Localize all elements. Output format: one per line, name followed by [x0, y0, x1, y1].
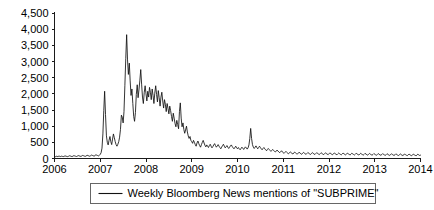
- x-tick-label: 2007: [88, 163, 112, 175]
- x-axis-tick-labels: 200620072008200920102011201220132014: [42, 163, 432, 175]
- y-tick-label: 500: [30, 136, 48, 148]
- x-tick-label: 2006: [42, 163, 66, 175]
- y-tick-label: 1,500: [21, 104, 49, 116]
- chart-figure: 05001,0001,5002,0002,5003,0003,5004,0004…: [0, 0, 434, 210]
- legend-label: Weekly Bloomberg News mentions of "SUBPR…: [128, 187, 379, 199]
- y-axis-tick-labels: 05001,0001,5002,0002,5003,0003,5004,0004…: [21, 7, 49, 165]
- chart-legend: Weekly Bloomberg News mentions of "SUBPR…: [91, 184, 379, 204]
- x-tick-label: 2010: [225, 163, 249, 175]
- subprime-mentions-line-chart: 05001,0001,5002,0002,5003,0003,5004,0004…: [0, 0, 434, 210]
- x-tick-label: 2008: [134, 163, 158, 175]
- y-tick-label: 4,000: [21, 23, 49, 35]
- x-tick-label: 2009: [180, 163, 204, 175]
- y-tick-label: 2,000: [21, 88, 49, 100]
- data-series-line: [55, 35, 421, 157]
- y-tick-label: 3,000: [21, 56, 49, 68]
- x-tick-label: 2011: [271, 163, 295, 175]
- x-tick-label: 2013: [363, 163, 387, 175]
- y-tick-label: 1,000: [21, 120, 49, 132]
- y-tick-label: 2,500: [21, 72, 49, 84]
- x-tick-label: 2012: [317, 163, 341, 175]
- y-tick-label: 3,500: [21, 39, 49, 51]
- x-tick-label: 2014: [408, 163, 432, 175]
- y-tick-label: 4,500: [21, 7, 49, 19]
